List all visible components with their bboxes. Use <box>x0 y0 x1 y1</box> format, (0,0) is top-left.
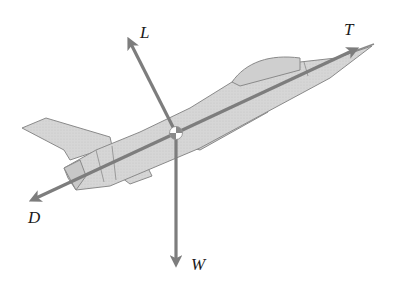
center-of-gravity-icon <box>170 127 183 140</box>
thrust-label: T <box>344 20 355 39</box>
lift-label: L <box>139 23 149 42</box>
lift-vector <box>130 42 176 133</box>
drag-label: D <box>27 208 41 227</box>
flight-forces-diagram: L T D W <box>0 0 393 289</box>
weight-label: W <box>191 255 207 274</box>
fuselage <box>64 46 372 190</box>
